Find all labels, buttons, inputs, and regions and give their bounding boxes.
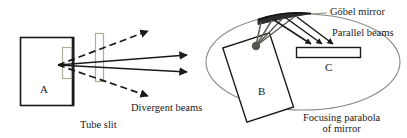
label-divergent-beams: Divergent beams [131,102,202,113]
gobel-mirror-leader [311,13,327,14]
label-focusing-parabola-line2: of mirror [303,123,380,134]
source-dot [252,42,260,50]
figure-container: A Divergent beams Tube slit B C Göbel mi… [0,0,407,138]
tube-slit-outer [96,34,104,82]
gobel-mirror [258,13,311,25]
ray-solid-up [58,55,187,65]
label-focusing-parabola-line1: Focusing parabola [303,112,380,123]
label-parallel-beams: Parallel beams [332,27,394,38]
label-box-c: C [325,62,332,74]
label-gobel-mirror: Göbel mirror [330,6,385,17]
label-box-b: B [258,86,265,98]
detector-box-c [297,48,361,58]
label-box-a: A [40,84,48,96]
label-focusing-parabola: Focusing parabola of mirror [303,112,380,135]
label-tube-slit: Tube slit [80,119,117,130]
ray-solid-down [58,65,187,72]
